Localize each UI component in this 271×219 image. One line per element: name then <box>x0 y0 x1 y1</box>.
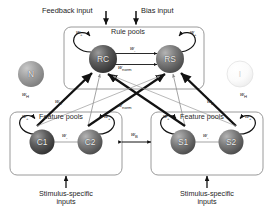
weight-c-lateral-subscript: - <box>66 135 67 140</box>
weight-diag-h-left: wH <box>22 92 29 100</box>
weight-rule-norm-subscript: norm <box>122 67 132 72</box>
network-diagram: Feedback input Bias input Rule pools Fea… <box>0 0 271 219</box>
weight-diag-d-left-subscript: D <box>59 101 62 106</box>
weight-s-self-left: w+ <box>163 114 170 122</box>
stimulus-input-caption-left: Stimulus-specific inputs <box>26 190 106 205</box>
feature-pools-right-title: Feature pools <box>180 113 224 121</box>
weight-between-features-subscript: B <box>135 134 138 139</box>
weight-s-self-right-subscript: + <box>249 116 251 121</box>
weight-c-self-left-subscript: + <box>26 116 28 121</box>
feature-pools-left-title: Feature pools <box>39 113 83 121</box>
weight-c-self-left: w+ <box>22 114 29 122</box>
weight-feature-norm-subscript: norm <box>122 105 132 110</box>
node-c2-label: C2 <box>80 137 100 147</box>
weight-feature-norm: wnorm <box>118 103 132 111</box>
node-s1-label: S1 <box>173 137 193 147</box>
stimulus-caption-left-line2: inputs <box>26 198 106 206</box>
rule-lateral-connection <box>115 54 157 65</box>
node-n-label: N <box>21 69 41 79</box>
node-rs-label: RS <box>159 54 181 64</box>
weight-rc-self: w+ <box>76 30 83 38</box>
weight-rule-lateral-subscript: - <box>134 48 135 53</box>
feedback-input-label: Feedback input <box>42 7 93 15</box>
weight-diag-h-left-subscript: H <box>26 94 29 99</box>
weight-rule-norm: wnorm <box>118 65 132 73</box>
weight-s-lateral: w- <box>203 133 208 141</box>
weight-c-self-right: w+ <box>104 114 111 122</box>
weight-rs-self-subscript: + <box>194 32 196 37</box>
stimulus-input-caption-right: Stimulus-specific inputs <box>167 190 247 205</box>
weight-s-lateral-subscript: - <box>207 135 208 140</box>
weight-diag-h-right-subscript: H <box>244 94 247 99</box>
weight-c-lateral: w- <box>62 133 67 141</box>
weight-s-self-left-subscript: + <box>167 116 169 121</box>
weight-s-self-right: w+ <box>245 114 252 122</box>
node-rc-label: RC <box>92 54 114 64</box>
weight-c-self-right-subscript: + <box>108 116 110 121</box>
weight-between-features: wB <box>131 132 138 140</box>
weight-diag-d-left: wD <box>55 99 62 107</box>
bias-input-label: Bias input <box>141 7 173 15</box>
node-c1-label: C1 <box>32 137 52 147</box>
weight-rule-lateral: w- <box>130 46 135 54</box>
weight-rs-self: w+ <box>190 30 197 38</box>
stimulus-caption-right-line2: inputs <box>167 198 247 206</box>
node-i-label: I <box>230 69 250 79</box>
weight-diag-d-right-subscript: D <box>211 101 214 106</box>
rule-pools-title: Rule pools <box>111 28 145 36</box>
weight-rc-self-subscript: + <box>80 32 82 37</box>
node-s2-label: S2 <box>221 137 241 147</box>
weight-diag-d-right: wD <box>207 99 214 107</box>
weight-diag-h-right: wH <box>240 92 247 100</box>
